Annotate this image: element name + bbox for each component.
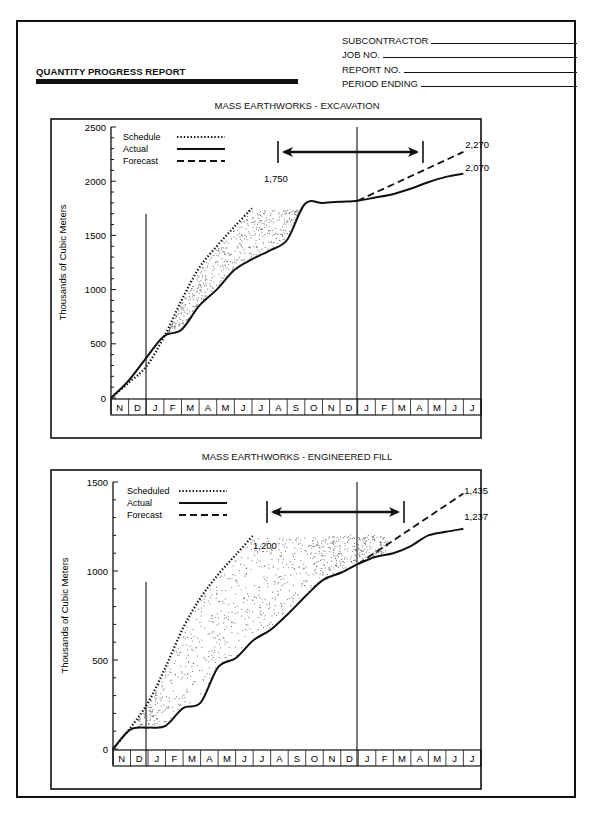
month-label: M	[222, 402, 230, 413]
month-label: S	[294, 753, 300, 764]
month-label: M	[433, 753, 441, 764]
value-annotation: 1,750	[264, 173, 288, 184]
y-tick-label: 0	[101, 393, 106, 404]
month-label: A	[275, 402, 282, 413]
month-label: M	[433, 402, 441, 413]
month-label: J	[260, 753, 265, 764]
month-label: J	[154, 753, 159, 764]
value-annotation: 2,070	[465, 162, 489, 173]
variance-stipple	[166, 208, 302, 335]
y-tick-label: 1000	[85, 284, 106, 295]
month-label: J	[470, 402, 475, 413]
month-label: J	[153, 402, 158, 413]
actual-line	[113, 529, 463, 749]
month-label: F	[171, 753, 177, 764]
month-label: A	[416, 402, 423, 413]
month-label: D	[345, 402, 352, 413]
y-axis-label: Thousands of Cubic Meters	[59, 557, 70, 673]
month-label: A	[416, 753, 423, 764]
y-axis-label: Thousands of Cubic Meters	[57, 204, 68, 320]
legend-label: Schedule	[123, 132, 161, 142]
legend-label: Scheduled	[127, 486, 170, 496]
actual-line	[111, 174, 463, 398]
month-label: J	[452, 753, 457, 764]
forecast-line	[358, 494, 463, 564]
month-label: O	[310, 402, 317, 413]
month-label: D	[346, 753, 353, 764]
month-label: J	[452, 402, 457, 413]
variance-stipple	[138, 535, 388, 727]
month-label: M	[223, 753, 231, 764]
y-tick-label: 1500	[85, 230, 106, 241]
month-label: N	[329, 753, 336, 764]
y-tick-label: 0	[103, 744, 108, 755]
month-label: J	[242, 753, 247, 764]
month-label: S	[293, 402, 299, 413]
month-label: F	[170, 402, 176, 413]
legend-label: Actual	[127, 498, 152, 508]
month-label: F	[382, 753, 388, 764]
legend-label: Actual	[123, 144, 148, 154]
schedule-line	[111, 208, 252, 398]
month-label: J	[470, 753, 475, 764]
month-label: A	[206, 753, 213, 764]
y-tick-label: 2500	[85, 122, 106, 133]
value-annotation: 1,237	[464, 511, 488, 522]
value-annotation: 1,200	[253, 540, 277, 551]
legend: ScheduledActualForecast	[127, 486, 227, 520]
month-label: F	[381, 402, 387, 413]
month-label: A	[205, 402, 212, 413]
month-label: J	[241, 402, 246, 413]
month-label: D	[134, 402, 141, 413]
month-label: J	[258, 402, 263, 413]
y-tick-label: 500	[92, 655, 108, 666]
legend-label: Forecast	[123, 156, 159, 166]
legend: ScheduleActualForecast	[123, 132, 225, 166]
month-label: M	[398, 402, 406, 413]
month-label: J	[365, 753, 370, 764]
charts-canvas: 05001000150020002500Thousands of Cubic M…	[0, 0, 594, 819]
chart-0: 05001000150020002500Thousands of Cubic M…	[51, 119, 489, 438]
month-label: M	[186, 402, 194, 413]
month-label: J	[364, 402, 369, 413]
month-label: N	[118, 753, 125, 764]
period-double-arrow	[267, 501, 404, 523]
chart-1: 050010001500Thousands of Cubic MetersNDJ…	[51, 470, 488, 789]
value-annotation: 1,435	[464, 485, 488, 496]
month-label: A	[276, 753, 283, 764]
period-double-arrow	[278, 141, 423, 163]
chart-frame	[51, 119, 481, 438]
y-tick-label: 1000	[87, 566, 108, 577]
month-label: O	[311, 753, 318, 764]
legend-label: Forecast	[127, 510, 163, 520]
month-label: M	[398, 753, 406, 764]
month-label: N	[116, 402, 123, 413]
value-annotation: 2,270	[465, 139, 489, 150]
schedule-line	[113, 535, 253, 749]
month-label: D	[136, 753, 143, 764]
y-tick-label: 2000	[85, 176, 106, 187]
y-tick-label: 500	[90, 338, 106, 349]
month-label: N	[328, 402, 335, 413]
y-tick-label: 1500	[87, 477, 108, 488]
month-label: M	[188, 753, 196, 764]
